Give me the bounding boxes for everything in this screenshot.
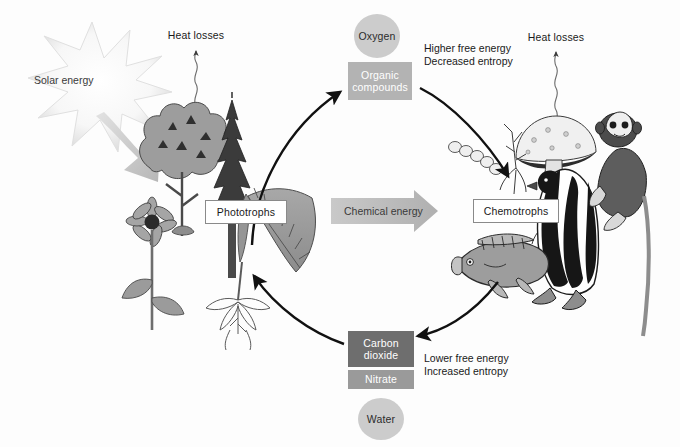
penguin-illustration <box>527 169 599 309</box>
monkey-illustration <box>589 112 648 336</box>
nitrate-label-box: Nitrate <box>348 370 414 389</box>
carbon-dioxide-label-box: Carbon dioxide <box>348 331 414 367</box>
bacteria-chain-illustration <box>449 142 503 175</box>
oxygen-label-circle: Oxygen <box>354 14 400 58</box>
phototrophs-label-box: Phototrophs <box>205 200 287 224</box>
dandelion-illustration <box>206 262 270 350</box>
heat-losses-label-left: Heat losses <box>158 28 234 42</box>
annotation-higher-free-energy: Higher free energy Decreased entropy <box>424 42 513 68</box>
heat-losses-label-right: Heat losses <box>518 30 594 44</box>
organic-compounds-label-box: Organic compounds <box>348 62 412 100</box>
sunflower-illustration <box>122 197 184 330</box>
cycle-arrow-organic-to-chemotrophs <box>420 88 508 176</box>
annotation-lower-free-energy: Lower free energy Increased entropy <box>424 352 509 378</box>
diagram-canvas: Solar energy Heat losses Heat losses Pho… <box>0 0 680 447</box>
chemical-energy-label: Chemical energy <box>344 205 423 217</box>
fish-illustration <box>451 234 548 298</box>
diagram-artwork <box>0 0 680 447</box>
water-label-circle: Water <box>358 398 404 440</box>
cycle-arrow-co2-to-plants <box>254 276 344 344</box>
solar-energy-label: Solar energy <box>34 74 94 86</box>
cycle-arrow-chemotrophs-to-co2 <box>418 282 498 336</box>
chemotrophs-label-box: Chemotrophs <box>473 199 559 223</box>
